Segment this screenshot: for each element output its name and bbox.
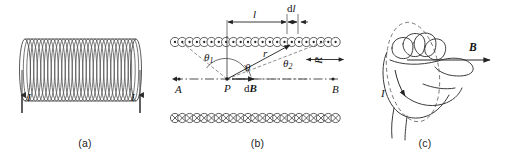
axis-label-B: B	[332, 84, 339, 95]
caption-a: (a)	[0, 137, 170, 149]
axis-label-A: A	[175, 84, 182, 95]
angle-label-theta1: θ1	[204, 52, 213, 65]
panel-b-cross-section: l dl θ1 θ θ2 r R P dB A B (b)	[170, 0, 345, 155]
coil-current-out-dot	[247, 41, 249, 43]
caption-c: (c)	[345, 137, 505, 149]
coil-current-out-dot	[188, 41, 190, 43]
coil-current-out-dot	[232, 41, 234, 43]
coil-current-out-dot	[298, 41, 300, 43]
coil-current-out-dot	[327, 41, 329, 43]
field-label-dB: dB	[244, 83, 257, 94]
coil-current-out-dot	[276, 41, 278, 43]
current-label-left: I	[27, 92, 31, 103]
point-label-P: P	[224, 83, 231, 94]
coil-current-out-dot	[174, 41, 176, 43]
coil-current-out-dot	[210, 41, 212, 43]
field-loop-ellipse	[380, 19, 445, 125]
coil-current-out-dot	[196, 41, 198, 43]
solenoid-drawing	[0, 0, 170, 155]
dimension-lines	[227, 14, 308, 40]
coil-current-out-dot	[240, 41, 242, 43]
cross-section-drawing	[170, 0, 345, 155]
hand-drawing	[345, 0, 505, 155]
geometry-construction	[180, 41, 326, 79]
coil-current-out-dot	[261, 41, 263, 43]
radius-label-R: R	[313, 57, 324, 64]
solenoid-body	[20, 39, 142, 101]
coil-current-out-dot	[269, 41, 271, 43]
current-label-I: I	[381, 88, 385, 99]
angle-label-theta2: θ2	[283, 58, 292, 71]
coil-current-out-dot	[291, 41, 293, 43]
coil-current-out-dot	[218, 41, 220, 43]
hand-outline	[383, 33, 473, 140]
figure-root: I I (a)	[0, 0, 505, 155]
point-P-marker	[225, 77, 228, 80]
current-label-right: I	[131, 92, 135, 103]
coil-current-out-dot	[305, 41, 307, 43]
coil-row-bottom	[170, 113, 340, 122]
coil-current-out-dot	[334, 41, 336, 43]
element-label-dl: dl	[287, 3, 296, 14]
current-direction-arrow	[395, 70, 405, 96]
length-label-l: l	[253, 9, 256, 20]
caption-b: (b)	[170, 137, 345, 149]
panel-c-right-hand-rule: B I (c)	[345, 0, 505, 155]
angle-label-theta: θ	[245, 62, 250, 73]
coil-current-out-dot	[203, 41, 205, 43]
field-label-B: B	[469, 42, 477, 54]
coil-current-out-dot	[283, 41, 285, 43]
r-vector	[227, 45, 290, 79]
panel-a-solenoid: I I (a)	[0, 0, 170, 155]
coil-current-out-dot	[254, 41, 256, 43]
distance-label-r: r	[263, 48, 267, 59]
coil-current-out-dot	[313, 41, 315, 43]
